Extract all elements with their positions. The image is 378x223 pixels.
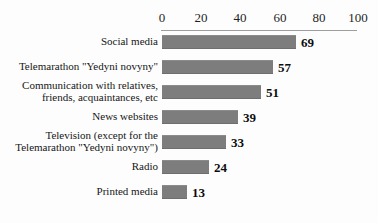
- category-label: Communication with relatives, friends, a…: [0, 80, 158, 103]
- category-label-line: Communication with relatives,: [0, 80, 158, 92]
- category-label-line: Social media: [0, 36, 158, 48]
- category-label: Social media: [0, 36, 158, 48]
- x-axis-tick: 40: [220, 9, 260, 27]
- x-axis-tick: 20: [181, 9, 221, 27]
- bar-value-label: 57: [278, 60, 291, 74]
- bar: [162, 160, 209, 174]
- chart-row: Television (except for the Telemarathon …: [0, 133, 378, 158]
- category-label: Radio: [0, 161, 158, 173]
- chart-title: [96, 0, 316, 3]
- x-axis-tick: 80: [299, 9, 339, 27]
- chart-row: Printed media 13: [0, 183, 378, 208]
- axis-rule: [161, 30, 357, 31]
- category-label: Television (except for the Telemarathon …: [0, 130, 158, 153]
- bar-value-label: 69: [301, 35, 314, 49]
- x-axis: 0 20 40 60 80 100: [0, 9, 378, 27]
- category-label: Printed media: [0, 186, 158, 198]
- category-label: Telemarathon "Yedyni novyny": [0, 61, 158, 73]
- category-label-line: Telemarathon "Yedyni novyny"): [0, 142, 158, 154]
- category-label-line: Radio: [0, 161, 158, 173]
- category-label-line: Telemarathon "Yedyni novyny": [0, 61, 158, 73]
- bar: [162, 185, 187, 199]
- chart-row: Social media 69: [0, 33, 378, 58]
- category-label-line: Television (except for the: [0, 130, 158, 142]
- bar-chart: 0 20 40 60 80 100 Social media 69 Telema…: [0, 0, 378, 223]
- chart-row: Communication with relatives, friends, a…: [0, 83, 378, 108]
- chart-row: Radio 24: [0, 158, 378, 183]
- bar: [162, 135, 226, 149]
- bar-value-label: 51: [266, 85, 279, 99]
- bar-value-label: 24: [214, 160, 227, 174]
- x-axis-tick: 0: [142, 9, 182, 27]
- chart-rows: Social media 69 Telemarathon "Yedyni nov…: [0, 33, 378, 208]
- x-axis-tick: 100: [338, 9, 378, 27]
- bar: [162, 60, 273, 74]
- bar: [162, 35, 296, 49]
- bar-value-label: 13: [192, 185, 205, 199]
- category-label-line: Printed media: [0, 186, 158, 198]
- bar-value-label: 39: [243, 110, 256, 124]
- bar: [162, 110, 238, 124]
- x-axis-tick: 60: [260, 9, 300, 27]
- bar: [162, 85, 261, 99]
- category-label-line: friends, acquaintances, etc: [0, 92, 158, 104]
- bar-value-label: 33: [231, 135, 244, 149]
- category-label-line: News websites: [0, 111, 158, 123]
- category-label: News websites: [0, 111, 158, 123]
